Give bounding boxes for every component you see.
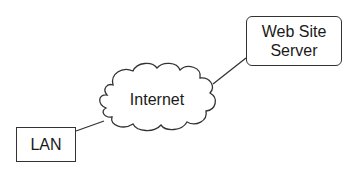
web-server-node: Web Site Server: [246, 16, 342, 66]
web-server-label: Web Site Server: [262, 22, 327, 60]
edge-lan-internet: [76, 121, 104, 131]
network-diagram: Web Site Server Internet LAN: [0, 0, 356, 173]
web-server-label-line2: Server: [262, 41, 327, 60]
web-server-label-line1: Web Site: [262, 22, 327, 41]
edge-internet-server: [213, 58, 246, 84]
internet-label: Internet: [120, 90, 194, 109]
lan-node: LAN: [16, 127, 76, 162]
lan-label: LAN: [30, 135, 61, 154]
